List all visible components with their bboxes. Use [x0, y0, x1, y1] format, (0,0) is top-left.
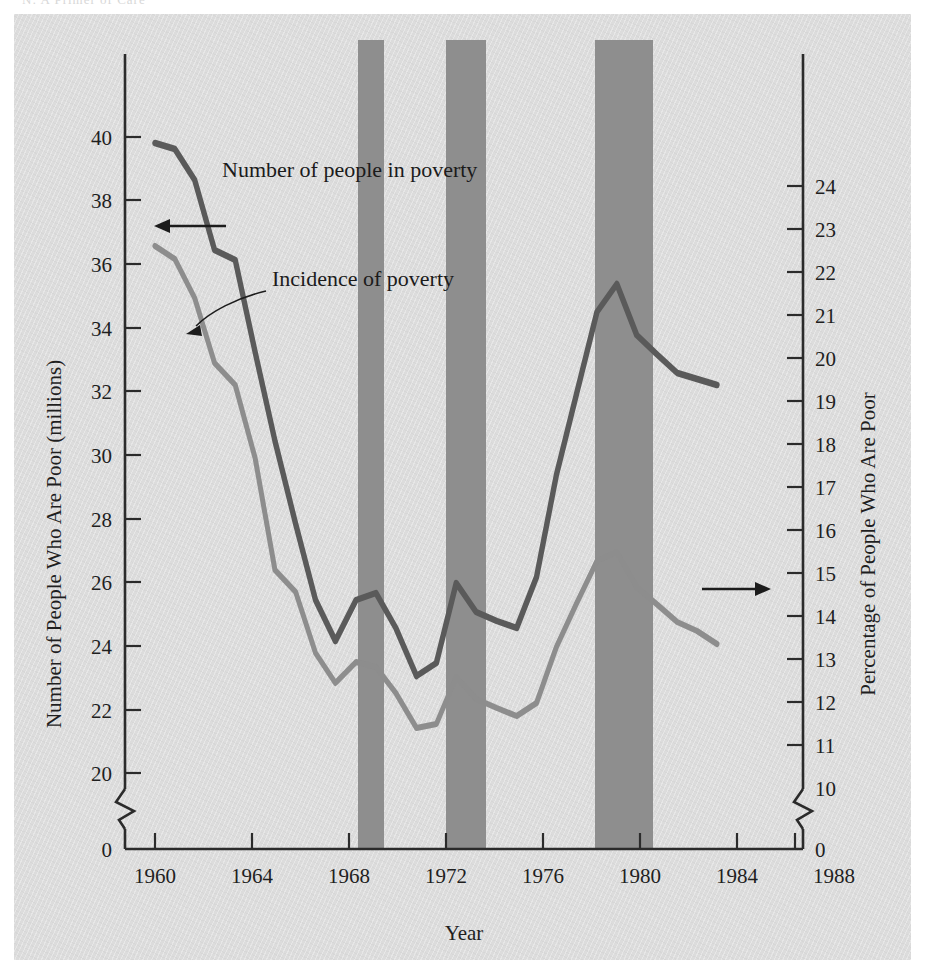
poverty-chart: 40 38 36 34 32 30 28 26 24 22 20 0 Numbe… — [14, 14, 911, 960]
left-axis-title: Number of People Who Are Poor (millions) — [42, 360, 66, 728]
x-tick-label-1984: 1984 — [716, 864, 759, 888]
x-axis: 1960 1964 1968 1972 1976 1980 1984 1988 … — [125, 833, 855, 945]
right-tick-label-24: 24 — [815, 175, 837, 199]
right-tick-label-23: 23 — [815, 218, 836, 242]
right-tick-label-17: 17 — [815, 476, 836, 500]
right-tick-label-zero: 0 — [815, 838, 826, 862]
left-tick-label-32: 32 — [91, 380, 112, 404]
left-tick-label-40: 40 — [91, 126, 112, 150]
left-tick-label-20: 20 — [91, 762, 112, 786]
x-tick-label-1968: 1968 — [328, 864, 370, 888]
right-axis-pointer — [702, 582, 771, 596]
left-tick-label-28: 28 — [91, 508, 112, 532]
right-tick-label-13: 13 — [815, 648, 836, 672]
right-axis: 24 23 22 21 20 19 18 17 16 15 14 13 12 1… — [787, 54, 880, 862]
right-tick-label-12: 12 — [815, 691, 836, 715]
left-axis: 40 38 36 34 32 30 28 26 24 22 20 0 Numbe… — [42, 54, 141, 862]
x-tick-label-1976: 1976 — [522, 864, 564, 888]
left-tick-label-36: 36 — [91, 253, 112, 277]
figure-page: N: A Primer of Care — [0, 0, 925, 974]
left-tick-label-zero: 0 — [102, 838, 113, 862]
left-axis-tick-labels: 40 38 36 34 32 30 28 26 24 22 20 0 — [91, 126, 113, 862]
right-tick-label-11: 11 — [815, 734, 835, 758]
right-axis-tick-labels: 24 23 22 21 20 19 18 17 16 15 14 13 12 1… — [815, 175, 837, 862]
right-axis-title: Percentage of People Who Are Poor — [856, 392, 880, 695]
recession-band-3 — [595, 40, 653, 849]
x-tick-label-1960: 1960 — [134, 864, 176, 888]
right-tick-label-15: 15 — [815, 562, 836, 586]
left-tick-label-34: 34 — [91, 317, 113, 341]
right-tick-label-20: 20 — [815, 347, 836, 371]
left-tick-label-24: 24 — [91, 635, 113, 659]
left-tick-label-38: 38 — [91, 189, 112, 213]
right-tick-label-18: 18 — [815, 433, 836, 457]
right-tick-label-10: 10 — [815, 777, 836, 801]
series-label-number-of-people-in-poverty: Number of people in poverty — [222, 157, 477, 182]
right-tick-label-19: 19 — [815, 390, 836, 414]
left-tick-label-30: 30 — [91, 444, 112, 468]
x-tick-label-1980: 1980 — [619, 864, 661, 888]
right-tick-label-16: 16 — [815, 519, 836, 543]
x-tick-label-1988: 1988 — [813, 864, 855, 888]
left-tick-label-22: 22 — [91, 699, 112, 723]
x-tick-label-1964: 1964 — [231, 864, 274, 888]
series-label-incidence-of-poverty: Incidence of poverty — [272, 266, 454, 291]
left-axis-pointer — [154, 219, 226, 233]
left-axis-ticks — [125, 137, 141, 773]
right-tick-label-14: 14 — [815, 605, 837, 629]
right-axis-ticks — [787, 186, 803, 745]
right-tick-label-21: 21 — [815, 304, 836, 328]
x-tick-label-1972: 1972 — [425, 864, 467, 888]
x-axis-tick-labels: 1960 1964 1968 1972 1976 1980 1984 1988 — [134, 864, 855, 888]
x-axis-title: Year — [445, 921, 484, 945]
figure-plate: 40 38 36 34 32 30 28 26 24 22 20 0 Numbe… — [14, 14, 911, 960]
running-head-fragment: N: A Primer of Care — [22, 0, 282, 10]
right-tick-label-22: 22 — [815, 261, 836, 285]
left-tick-label-26: 26 — [91, 571, 112, 595]
